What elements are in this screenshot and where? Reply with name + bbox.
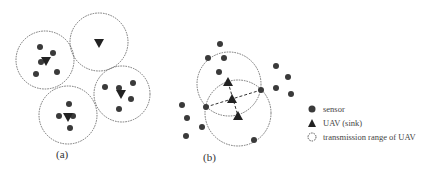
sensor-node: [54, 69, 60, 75]
sensor-node: [221, 55, 227, 61]
sensor-node: [37, 44, 43, 50]
uav-triangle-icon: [306, 117, 318, 129]
sensor-node: [251, 137, 257, 143]
sensor-node: [102, 84, 108, 90]
sensor-node: [205, 55, 211, 61]
sensor-node: [67, 125, 73, 131]
sensor-node: [66, 101, 72, 107]
sensor-node: [203, 104, 209, 110]
legend-label-uav: UAV (sink): [323, 118, 362, 128]
sensor-node: [273, 63, 279, 69]
sensor-node: [179, 102, 185, 108]
sensor-node: [285, 74, 291, 80]
legend-item-uav: UAV (sink): [306, 117, 362, 129]
sensor-node: [216, 69, 222, 75]
sensor-node: [50, 50, 56, 56]
legend-item-sensor: sensor: [306, 103, 345, 115]
sensor-node: [56, 113, 62, 119]
legend-label-range: transmission range of UAV: [323, 132, 416, 142]
sensor-node: [217, 41, 223, 47]
sensor-node: [199, 124, 205, 130]
sensor-node: [258, 87, 264, 93]
panel-a-label: (a): [56, 148, 68, 160]
sensor-dot-icon: [306, 103, 318, 115]
range-circle-icon: [306, 131, 318, 143]
sensor-node: [183, 133, 189, 139]
uav-triangle-icon: [227, 94, 237, 103]
sensor-node: [130, 80, 136, 86]
legend-label-sensor: sensor: [323, 104, 345, 114]
sensor-node: [184, 115, 190, 121]
sensor-node: [288, 91, 294, 97]
uav-triangle-icon: [94, 39, 104, 48]
uav-triangle-icon: [223, 77, 233, 86]
panel-b-label: (b): [203, 151, 216, 163]
sensor-node: [273, 85, 279, 91]
sensor-node: [116, 106, 122, 112]
legend-item-range: transmission range of UAV: [306, 131, 416, 143]
sensor-node: [33, 71, 39, 77]
sensor-node: [128, 96, 134, 102]
uav-triangle-icon: [116, 90, 126, 99]
